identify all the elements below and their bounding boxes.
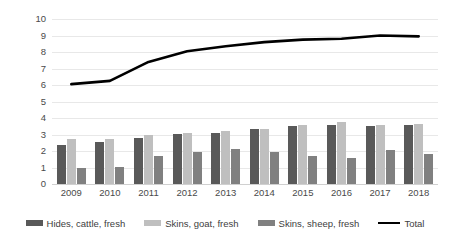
- chart-container: Million heads slaughtered 109876543210 2…: [0, 0, 450, 239]
- plot-area: [52, 19, 438, 184]
- y-axis-tick-label: 1: [26, 162, 46, 173]
- x-axis-label: 2011: [129, 187, 168, 203]
- legend-item[interactable]: Skins, sheep, fresh: [258, 218, 360, 229]
- y-axis-tick-label: 10: [26, 13, 46, 24]
- y-axis-tick-label: 3: [26, 129, 46, 140]
- x-axis-label: 2018: [399, 187, 438, 203]
- y-axis-tick-label: 9: [26, 30, 46, 41]
- legend-line-swatch-icon: [378, 222, 400, 225]
- legend-item-label: Skins, goat, fresh: [165, 218, 238, 229]
- total-line-path: [71, 36, 418, 85]
- x-axis-labels: 2009201020112012201320142015201620172018: [52, 187, 438, 203]
- legend-color-swatch-icon: [26, 220, 43, 226]
- x-axis-label: 2010: [91, 187, 130, 203]
- y-axis-tick-label: 0: [26, 178, 46, 189]
- legend-item[interactable]: Skins, goat, fresh: [144, 218, 238, 229]
- x-axis-label: 2009: [52, 187, 91, 203]
- legend-item[interactable]: Hides, cattle, fresh: [26, 218, 126, 229]
- x-axis-label: 2015: [284, 187, 323, 203]
- legend-color-swatch-icon: [258, 220, 275, 226]
- y-axis-tick-label: 2: [26, 145, 46, 156]
- legend-item-label: Total: [404, 218, 424, 229]
- y-axis-tick-label: 4: [26, 112, 46, 123]
- gridline: [52, 184, 438, 185]
- x-axis-label: 2014: [245, 187, 284, 203]
- total-line-series: [52, 19, 438, 184]
- y-axis-tick-label: 7: [26, 63, 46, 74]
- legend-item[interactable]: Total: [378, 218, 424, 229]
- x-axis-label: 2012: [168, 187, 207, 203]
- chart-legend: Hides, cattle, freshSkins, goat, freshSk…: [0, 214, 450, 232]
- x-axis-label: 2017: [361, 187, 400, 203]
- legend-item-label: Hides, cattle, fresh: [47, 218, 126, 229]
- legend-item-label: Skins, sheep, fresh: [279, 218, 360, 229]
- y-axis-tick-label: 6: [26, 79, 46, 90]
- x-axis-label: 2016: [322, 187, 361, 203]
- legend-color-swatch-icon: [144, 220, 161, 226]
- y-axis-tick-label: 8: [26, 46, 46, 57]
- x-axis-label: 2013: [206, 187, 245, 203]
- y-axis-tick-label: 5: [26, 96, 46, 107]
